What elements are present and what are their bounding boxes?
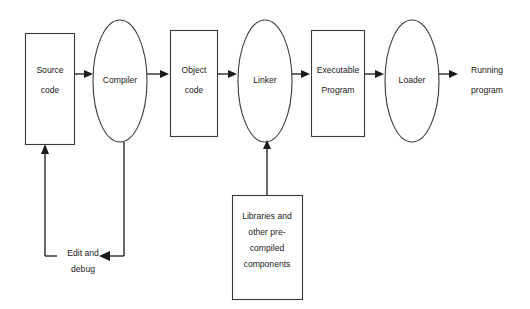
node-running-program: Running program <box>471 65 503 95</box>
arrow-compiler-to-object <box>147 70 169 78</box>
arrow-linker-to-executable-head <box>301 70 310 78</box>
compiler-label: Compiler <box>103 75 138 85</box>
object-code-box <box>171 31 218 137</box>
object-code-label-line1: Object <box>182 65 207 75</box>
feedback-loop-label-line2: debug <box>71 264 95 274</box>
feedback-loop-label-line1: Edit and <box>67 248 99 258</box>
arrow-object-to-linker <box>218 70 237 78</box>
feedback-loop-left-arrow-head <box>99 251 110 261</box>
arrow-executable-to-loader-head <box>375 70 384 78</box>
arrow-compiler-to-object-head <box>160 70 169 78</box>
libraries-label-line1: Libraries and <box>242 211 292 221</box>
feedback-loop-edit-and-debug: Edit and debug <box>41 142 124 274</box>
libraries-label-line4: components <box>244 259 291 269</box>
diagram-canvas: Source code Compiler Object code <box>0 0 530 309</box>
linker-label: Linker <box>253 75 277 85</box>
running-program-label-line2: program <box>471 85 503 95</box>
arrow-source-to-compiler-head <box>84 70 93 78</box>
node-executable-program: Executable Program <box>312 31 365 137</box>
node-loader: Loader <box>385 20 439 142</box>
arrow-executable-to-loader <box>365 70 384 78</box>
running-program-label-line1: Running <box>471 65 503 75</box>
arrow-loader-to-running-head <box>449 70 458 78</box>
executable-program-label-line1: Executable <box>317 65 360 75</box>
object-code-label-line2: code <box>185 85 204 95</box>
libraries-label-line3: compiled <box>250 243 285 253</box>
node-object-code: Object code <box>171 31 218 137</box>
arrow-linker-to-executable <box>292 70 310 78</box>
executable-program-box <box>312 31 365 137</box>
feedback-loop-up-arrow-head <box>41 144 49 154</box>
arrow-loader-to-running <box>439 70 458 78</box>
arrow-source-to-compiler <box>75 70 93 78</box>
arrow-object-to-linker-head <box>228 70 237 78</box>
node-compiler: Compiler <box>93 20 147 142</box>
loader-label: Loader <box>399 75 426 85</box>
arrow-libraries-to-linker <box>263 140 271 195</box>
compilation-pipeline-diagram: Source code Compiler Object code <box>0 0 530 309</box>
node-source-code: Source code <box>26 34 75 145</box>
source-code-label-line1: Source <box>36 65 63 75</box>
executable-program-label-line2: Program <box>322 85 355 95</box>
libraries-label-line2: other pre- <box>248 227 285 237</box>
source-code-label-line2: code <box>41 85 60 95</box>
node-libraries: Libraries and other pre- compiled compon… <box>233 196 303 300</box>
node-linker: Linker <box>238 20 292 142</box>
